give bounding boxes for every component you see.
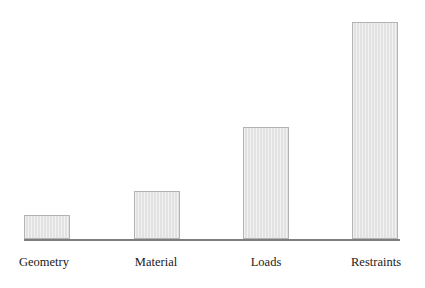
bar-restraints [352,22,398,239]
bar-loads [243,127,289,239]
plot-area: Geometry Material Loads Restraints [0,0,425,288]
bar-geometry [24,215,70,239]
x-axis-line [24,239,400,241]
bar-chart: Geometry Material Loads Restraints [0,0,425,288]
bar-material [134,191,180,239]
x-tick-label-material: Material [101,255,211,269]
x-tick-label-geometry: Geometry [0,255,99,269]
x-tick-label-restraints: Restraints [321,255,425,269]
x-tick-label-loads: Loads [211,255,321,269]
